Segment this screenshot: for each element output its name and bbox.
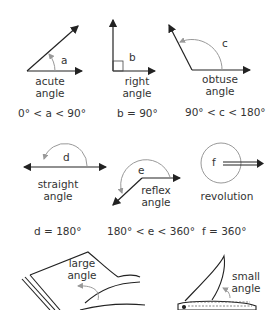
right-angle-figure	[113, 20, 155, 71]
variable-c: c	[222, 37, 228, 49]
obtuse-angle-figure	[169, 25, 250, 70]
variable-a: a	[61, 54, 67, 66]
label-straight-angle: straight angle	[33, 178, 83, 202]
label-acute-angle: acute angle	[30, 75, 70, 99]
condition-obtuse: 90° < c < 180°	[185, 106, 266, 118]
variable-b: b	[129, 51, 136, 63]
condition-revolution: f = 360°	[202, 225, 246, 237]
condition-reflex: 180° < e < 360°	[107, 225, 195, 237]
label-large-angle: large angle	[64, 257, 100, 281]
label-revolution: revolution	[197, 190, 257, 202]
variable-e: e	[138, 164, 144, 176]
angle-diagram	[0, 0, 274, 310]
label-reflex-angle: reflex angle	[136, 184, 176, 208]
label-small-angle: small angle	[228, 270, 264, 294]
variable-f: f	[212, 156, 216, 168]
condition-acute: 0° < a < 90°	[18, 107, 86, 119]
condition-right: b = 90°	[117, 107, 158, 119]
label-right-angle: right angle	[117, 75, 157, 99]
revolution-figure	[201, 143, 264, 183]
variable-d: d	[63, 151, 70, 163]
label-obtuse-angle: obtuse angle	[196, 73, 244, 97]
condition-straight: d = 180°	[34, 225, 81, 237]
acute-angle-figure	[27, 26, 82, 71]
